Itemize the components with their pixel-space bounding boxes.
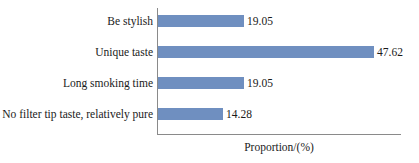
category-label: Long smoking time	[63, 76, 157, 90]
bar-value-label: 19.05	[247, 14, 273, 28]
bar-row: Long smoking time 19.05	[0, 73, 419, 103]
bar-long-smoking-time	[158, 77, 244, 89]
bar-be-stylish	[158, 15, 244, 27]
x-axis-line	[157, 134, 401, 135]
bar-unique-taste	[158, 46, 374, 58]
bar-value-label: 14.28	[226, 107, 252, 121]
bar-chart: Be stylish 19.05 Unique taste 47.62 Long…	[0, 0, 419, 163]
bar-value-label: 19.05	[247, 76, 273, 90]
x-axis-title: Proportion/(%)	[157, 140, 401, 155]
bar-value-label: 47.62	[377, 45, 403, 59]
bar-no-filter-tip-taste	[158, 108, 223, 120]
category-label: No filter tip taste, relatively pure	[2, 107, 157, 121]
plot-area: Be stylish 19.05 Unique taste 47.62 Long…	[0, 0, 419, 163]
bar-row: Be stylish 19.05	[0, 11, 419, 41]
category-label: Unique taste	[95, 45, 157, 59]
bar-row: No filter tip taste, relatively pure 14.…	[0, 104, 419, 134]
category-label: Be stylish	[107, 14, 157, 28]
bar-row: Unique taste 47.62	[0, 42, 419, 72]
